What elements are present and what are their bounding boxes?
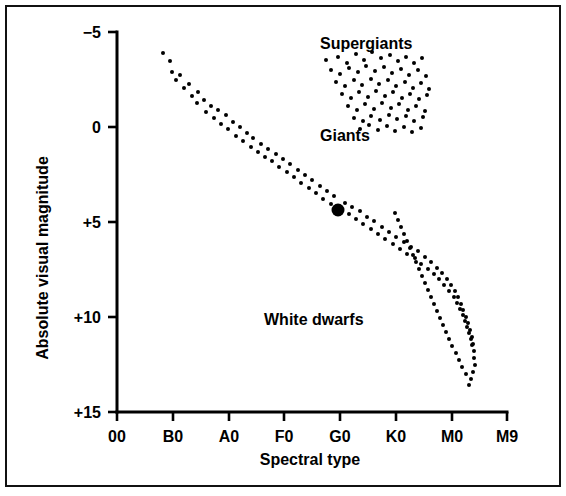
star-point [395, 117, 399, 121]
star-point [420, 56, 424, 60]
star-point [423, 281, 427, 285]
star-point [343, 201, 347, 205]
star-point [399, 225, 403, 229]
star-point [285, 170, 289, 174]
sun-marker [332, 204, 345, 217]
star-point [412, 119, 416, 123]
star-point [391, 90, 395, 94]
star-point [266, 147, 270, 151]
star-point [231, 120, 235, 124]
star-point [363, 102, 367, 106]
star-point [455, 301, 459, 305]
star-point [187, 82, 191, 86]
star-point [281, 157, 285, 161]
star-point [234, 134, 238, 138]
star-point [471, 370, 475, 374]
star-point [389, 106, 393, 110]
star-point [321, 197, 325, 201]
star-point [219, 122, 223, 126]
star-point [369, 77, 373, 81]
star-point [387, 230, 391, 234]
x-axis-title: Spectral type [260, 451, 361, 468]
star-point [457, 358, 461, 362]
star-point [466, 321, 470, 325]
star-point [204, 110, 208, 114]
star-point [424, 74, 428, 78]
series-giants-and-supergiants [324, 50, 431, 134]
star-point [419, 262, 423, 266]
star-point [400, 96, 404, 100]
star-point [419, 126, 423, 130]
star-point [394, 235, 398, 239]
y-axis-tick-labels: −50+5+10+15 [74, 24, 101, 421]
star-point [412, 61, 416, 65]
star-point [346, 104, 350, 108]
star-point [329, 202, 333, 206]
star-point [420, 274, 424, 278]
star-point [423, 255, 427, 259]
star-point [358, 209, 362, 213]
hr-diagram-figure: 00B0A0F0G0K0M0M9 −50+5+10+15 Supergiants… [0, 0, 566, 496]
star-point [407, 73, 411, 77]
star-point [417, 267, 421, 271]
star-point [347, 66, 351, 70]
star-point [334, 80, 338, 84]
star-point [445, 277, 449, 281]
series-sun-marker [332, 204, 345, 217]
star-point [296, 168, 300, 172]
star-point [396, 218, 400, 222]
star-point [361, 222, 365, 226]
star-point [161, 51, 165, 55]
star-point [357, 90, 361, 94]
star-point [385, 124, 389, 128]
star-point [472, 356, 476, 360]
star-point [456, 295, 460, 299]
star-point [472, 349, 476, 353]
star-point [393, 129, 397, 133]
star-point [251, 136, 255, 140]
star-point [263, 155, 267, 159]
star-point [332, 194, 336, 198]
star-point [423, 109, 427, 113]
star-point [465, 325, 469, 329]
star-point [310, 178, 314, 182]
x-axis-tick-label: F0 [275, 428, 294, 445]
star-point [376, 232, 380, 236]
star-point [404, 114, 408, 118]
star-point [241, 139, 245, 143]
star-point [324, 58, 328, 62]
star-point [318, 184, 322, 188]
star-point [414, 260, 418, 264]
star-point [426, 288, 430, 292]
star-point [277, 165, 281, 169]
star-point [374, 89, 378, 93]
star-point [419, 81, 423, 85]
star-point [373, 69, 377, 73]
star-point [435, 266, 439, 270]
star-point [421, 115, 425, 119]
star-point [380, 225, 384, 229]
star-point [403, 80, 407, 84]
star-point [461, 308, 465, 312]
star-point [372, 107, 376, 111]
star-point [352, 78, 356, 82]
star-point [369, 114, 373, 118]
plot-canvas: 00B0A0F0G0K0M0M9 −50+5+10+15 Supergiants… [0, 0, 566, 496]
star-point [417, 97, 421, 101]
star-point [383, 94, 387, 98]
star-point [410, 130, 414, 134]
star-point [372, 219, 376, 223]
star-point [343, 84, 347, 88]
star-point [349, 96, 353, 100]
region-label-supergiants: Supergiants [320, 35, 413, 52]
star-point [469, 377, 473, 381]
star-point [435, 309, 439, 313]
star-point [336, 55, 340, 59]
star-point [387, 113, 391, 117]
star-point [467, 383, 471, 387]
y-axis-title: Absolute visual magnitude [34, 156, 51, 360]
star-point [182, 86, 186, 90]
star-point [249, 145, 253, 149]
star-point [338, 72, 342, 76]
star-point [202, 98, 206, 102]
